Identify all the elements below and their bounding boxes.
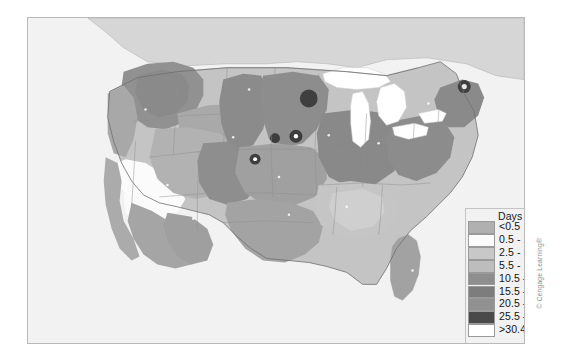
station-marker-iowa: [294, 134, 298, 138]
legend-label: 20.5 - 25.4: [499, 297, 525, 309]
legend-swatch: [468, 221, 495, 234]
legend-swatch: [468, 298, 495, 311]
legend-swatch: [468, 247, 495, 260]
legend: Days <0.50.5 - 2.42.5 - 5.45.5 - 10.410.…: [465, 208, 525, 344]
legend-row: >30.4: [468, 324, 525, 337]
legend-swatch: [468, 234, 495, 247]
legend-swatch: [468, 324, 495, 337]
map-graphic: [28, 18, 524, 343]
legend-label: 25.5 - 30.4: [499, 310, 525, 322]
legend-swatch: [468, 286, 495, 299]
map-frame: Days <0.50.5 - 2.42.5 - 5.45.5 - 10.410.…: [27, 17, 525, 344]
legend-label: 0.5 - 2.4: [499, 233, 525, 245]
legend-swatch: [468, 311, 495, 324]
legend-label: >30.4: [499, 323, 525, 335]
copyright-credit: © Cengage Learning®: [536, 238, 543, 309]
thunderstorm-days-figure: Days <0.50.5 - 2.42.5 - 5.45.5 - 10.410.…: [0, 0, 563, 359]
station-marker-kansas: [253, 157, 257, 161]
legend-label: <0.5: [499, 220, 520, 232]
legend-swatch: [468, 273, 495, 286]
legend-swatch: [468, 260, 495, 273]
legend-label: 15.5 - 20.4: [499, 285, 525, 297]
legend-label: 2.5 - 5.4: [499, 246, 525, 258]
legend-label: 10.5 - 15.4: [499, 272, 525, 284]
legend-label: 5.5 - 10.4: [499, 259, 525, 271]
station-core-minnesota: [300, 90, 318, 108]
